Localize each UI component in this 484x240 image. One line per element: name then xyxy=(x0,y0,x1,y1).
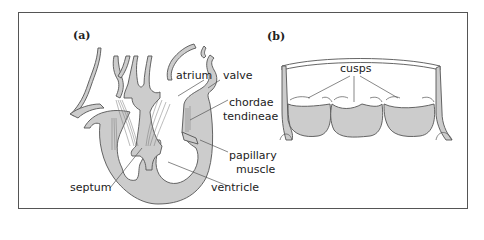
label-valve: valve xyxy=(223,70,253,82)
panel-label-a: (a) xyxy=(73,29,91,42)
panel-label-b: (b) xyxy=(267,30,285,43)
label-cusps: cusps xyxy=(340,63,371,75)
label-papillary-line1: papillary xyxy=(229,150,277,162)
label-chordae-line2: tendineae xyxy=(223,111,278,123)
label-ventricle: ventricle xyxy=(211,182,259,194)
label-septum: septum xyxy=(70,182,111,194)
label-atrium: atrium xyxy=(176,70,212,82)
label-papillary-line2: muscle xyxy=(236,164,275,176)
label-chordae-line1: chordae xyxy=(229,97,274,109)
